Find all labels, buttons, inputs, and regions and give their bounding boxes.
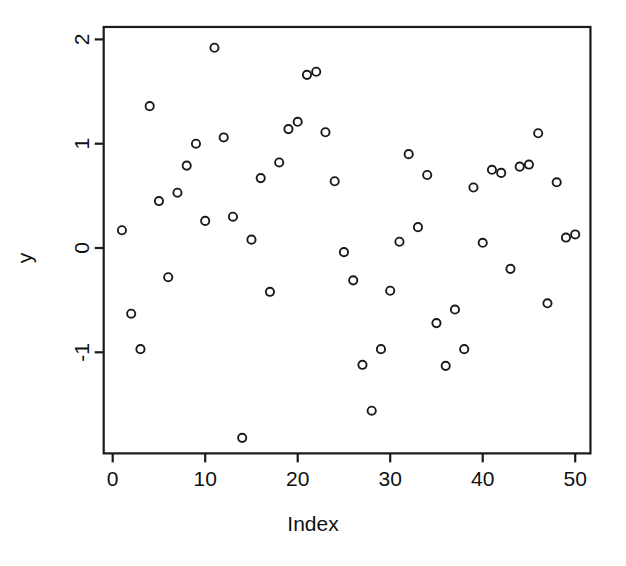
data-point-marker [183, 162, 191, 170]
data-point-marker [377, 345, 385, 353]
data-point-marker [460, 345, 468, 353]
data-point-marker [257, 174, 265, 182]
x-axis-tick-label: 40 [471, 467, 494, 490]
data-point-marker [146, 102, 154, 110]
data-point-marker [395, 238, 403, 246]
data-point-marker [516, 163, 524, 171]
data-point-marker [386, 287, 394, 295]
data-point-marker [127, 310, 135, 318]
data-point-marker [349, 276, 357, 284]
data-point-marker [173, 189, 181, 197]
plot-canvas: 01020304050 -1012 Index y [0, 0, 626, 566]
plot-panel [104, 27, 591, 453]
data-point-marker [118, 226, 126, 234]
data-point-marker [506, 265, 514, 273]
data-point-marker [247, 236, 255, 244]
scatter-plot-figure: 01020304050 -1012 Index y [0, 0, 626, 566]
data-point-marker [136, 345, 144, 353]
data-point-layer [118, 44, 579, 442]
data-point-marker [229, 213, 237, 221]
y-axis-title: y [13, 252, 36, 263]
data-point-marker [275, 158, 283, 166]
x-axis: 01020304050 [107, 453, 587, 490]
x-axis-tick-label: 50 [564, 467, 587, 490]
data-point-marker [479, 239, 487, 247]
data-point-marker [201, 217, 209, 225]
data-point-marker [469, 183, 477, 191]
x-axis-tick-label: 0 [107, 467, 119, 490]
x-axis-tick-label: 30 [379, 467, 402, 490]
data-point-marker [331, 177, 339, 185]
data-point-marker [571, 230, 579, 238]
y-axis-tick-label: 0 [70, 242, 93, 254]
data-point-marker [368, 407, 376, 415]
data-point-marker [534, 129, 542, 137]
data-point-marker [266, 288, 274, 296]
data-point-marker [442, 362, 450, 370]
data-point-marker [238, 434, 246, 442]
data-point-marker [321, 128, 329, 136]
y-axis-tick-label: 1 [70, 138, 93, 150]
data-point-marker [497, 169, 505, 177]
data-point-marker [164, 273, 172, 281]
data-point-marker [192, 140, 200, 148]
data-point-marker [451, 305, 459, 313]
x-axis-title: Index [287, 512, 339, 535]
plot-box-border [104, 27, 591, 453]
y-axis-tick-label: -1 [70, 343, 93, 362]
data-point-marker [562, 233, 570, 241]
data-point-marker [284, 125, 292, 133]
x-axis-tick-label: 20 [286, 467, 309, 490]
data-point-marker [543, 299, 551, 307]
data-point-marker [340, 248, 348, 256]
data-point-marker [155, 197, 163, 205]
data-point-marker [312, 68, 320, 76]
data-point-marker [553, 178, 561, 186]
data-point-marker [414, 223, 422, 231]
data-point-marker [405, 150, 413, 158]
data-point-marker [358, 361, 366, 369]
data-point-marker [432, 319, 440, 327]
data-point-marker [294, 118, 302, 126]
data-point-marker [303, 71, 311, 79]
data-point-marker [220, 133, 228, 141]
y-axis: -1012 [70, 34, 104, 362]
y-axis-tick-label: 2 [70, 34, 93, 46]
data-point-marker [210, 44, 218, 52]
data-point-marker [525, 160, 533, 168]
x-axis-tick-label: 10 [194, 467, 217, 490]
data-point-marker [488, 166, 496, 174]
data-point-marker [423, 171, 431, 179]
